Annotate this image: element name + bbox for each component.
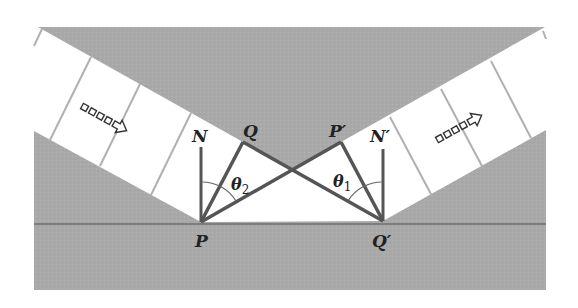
label-P: P <box>194 231 209 251</box>
label-N-prime: N′ <box>369 126 391 146</box>
label-P-prime: P′ <box>328 121 347 141</box>
label-Q-prime: Q′ <box>372 231 392 251</box>
label-N: N <box>191 126 209 146</box>
label-Q: Q <box>243 121 258 141</box>
diagram-canvas: N Q P′ N′ P Q′ θ2 θ1 <box>0 0 578 308</box>
reflection-diagram: N Q P′ N′ P Q′ θ2 θ1 <box>0 0 578 308</box>
